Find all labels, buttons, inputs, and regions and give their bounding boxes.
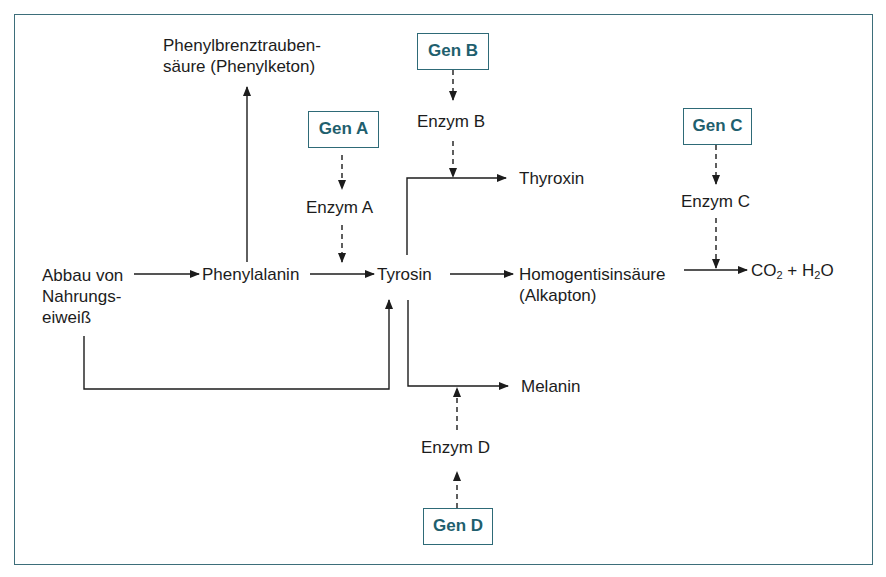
node-tyrosin: Tyrosin (377, 264, 432, 285)
pathway-arrows (0, 0, 886, 577)
gene-b-box: Gen B (417, 33, 489, 70)
node-phenylalanin: Phenylalanin (202, 264, 299, 285)
enzyme-c: Enzym C (681, 191, 750, 212)
node-phenylbrenztraubensaeure: Phenylbrenztrauben- säure (Phenylketon) (163, 35, 321, 77)
enzyme-b: Enzym B (417, 111, 485, 132)
node-thyroxin: Thyroxin (519, 168, 584, 189)
enzyme-d: Enzym D (421, 437, 490, 458)
node-co2-h2o: CO2 + H2O (751, 260, 834, 281)
node-abbau-nahrungseiweiss: Abbau von Nahrungs- eiweiß (42, 265, 123, 328)
gene-d-box: Gen D (423, 508, 493, 545)
enzyme-a: Enzym A (306, 197, 373, 218)
node-melanin: Melanin (521, 376, 581, 397)
gene-a-box: Gen A (308, 111, 379, 148)
gene-c-box: Gen C (683, 108, 752, 145)
node-homogentisinsaeure: Homogentisinsäure (Alkapton) (519, 264, 665, 306)
